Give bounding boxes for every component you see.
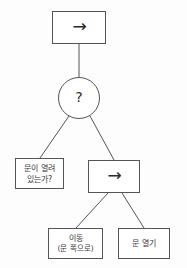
condition-label-line2: 있는가? [27, 174, 52, 185]
node-action-open-door[interactable]: 문 열기 [118, 228, 170, 259]
node-selector[interactable]: ? [58, 77, 100, 119]
question-mark-icon: ? [75, 90, 82, 104]
action-open-door-label: 문 열기 [132, 238, 156, 249]
action-move-label: 이동 [69, 233, 83, 244]
edge-selector-to-condition [40, 116, 69, 158]
node-sequence-open-door[interactable]: → [88, 160, 140, 193]
edge-selector-to-sequence [90, 116, 114, 160]
condition-label-line1: 문이 열려 [24, 163, 55, 174]
behavior-tree-diagram: → ? 문이 열려 있는가? → 이동 (문 쪽으로) 문 열기 [0, 0, 187, 268]
node-action-move[interactable]: 이동 (문 쪽으로) [48, 228, 103, 259]
right-arrow-icon: → [72, 18, 85, 35]
node-condition-door-open[interactable]: 문이 열려 있는가? [15, 158, 64, 189]
node-root-sequence[interactable]: → [52, 11, 106, 44]
right-arrow-icon: → [107, 167, 120, 184]
edge-sequence-to-open [122, 193, 144, 228]
action-move-sublabel: (문 쪽으로) [57, 244, 93, 254]
edge-sequence-to-move [76, 193, 108, 228]
